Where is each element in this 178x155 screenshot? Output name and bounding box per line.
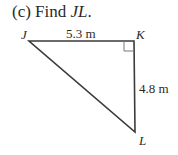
vertex-j-label: J [21,28,27,42]
right-angle-marker [124,41,134,51]
vertex-k-label: K [136,28,145,42]
vertex-l-label: L [139,134,146,148]
side-kl-length: 4.8 m [139,82,169,96]
side-jk-length: 5.3 m [66,27,96,41]
right-triangle [29,41,135,132]
triangle-diagram [0,0,178,155]
